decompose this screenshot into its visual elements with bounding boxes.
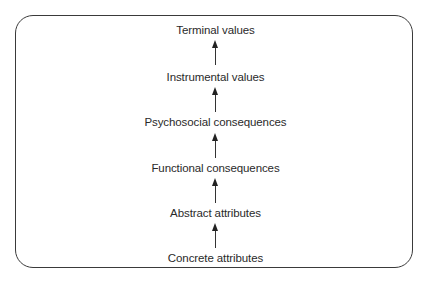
level-functional-consequences: Functional consequences: [0, 162, 431, 175]
level-concrete-attributes: Concrete attributes: [0, 252, 431, 265]
arrow-up-icon: [214, 178, 217, 203]
arrow-up-icon: [214, 40, 217, 65]
level-instrumental-values: Instrumental values: [0, 71, 431, 84]
arrow-up-icon: [214, 87, 217, 112]
level-psychosocial-consequences: Psychosocial consequences: [0, 116, 431, 129]
level-terminal-values: Terminal values: [0, 24, 431, 37]
arrow-up-icon: [214, 223, 217, 248]
level-abstract-attributes: Abstract attributes: [0, 207, 431, 220]
arrow-up-icon: [214, 133, 217, 158]
